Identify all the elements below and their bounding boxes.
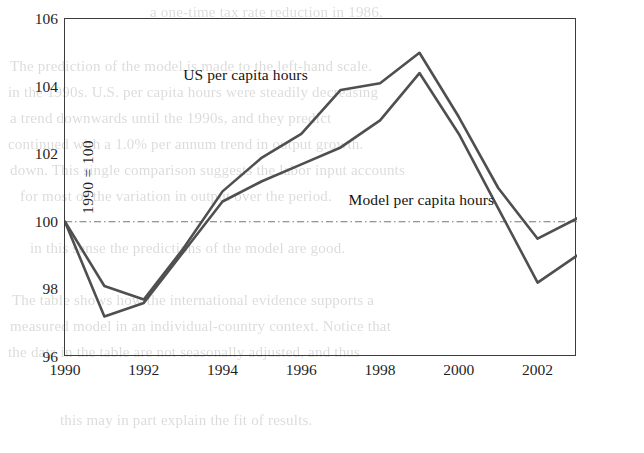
y-tick-label: 102 [35, 146, 58, 162]
plot-svg [65, 19, 577, 357]
series-annotation-model-per-capita-hours: Model per capita hours [349, 191, 495, 209]
plot-area: 106 104 102 100 98 96 1990 1992 1994 199… [64, 18, 576, 356]
x-tick-label: 1998 [365, 362, 396, 378]
series-line-model-per-capita-hours [65, 73, 577, 316]
y-tick-label: 98 [43, 282, 59, 298]
y-tick-label: 104 [35, 79, 58, 95]
series-annotation-us-per-capita-hours: US per capita hours [183, 66, 308, 84]
y-tick-label: 106 [35, 11, 58, 27]
x-tick-label: 2002 [522, 362, 553, 378]
x-tick-label: 1996 [286, 362, 317, 378]
x-tick-label: 1992 [128, 362, 159, 378]
series-lines [65, 53, 577, 317]
x-tick-label: 1990 [50, 362, 81, 378]
ghost-line: this may in part explain the fit of resu… [60, 412, 313, 429]
x-tick-label: 2000 [443, 362, 474, 378]
series-line-us-per-capita-hours [65, 53, 577, 300]
x-tick-label: 1994 [207, 362, 238, 378]
y-tick-label: 100 [35, 214, 58, 230]
line-chart: 1990 = 100 106 104 102 100 98 96 1990 19… [64, 18, 576, 378]
